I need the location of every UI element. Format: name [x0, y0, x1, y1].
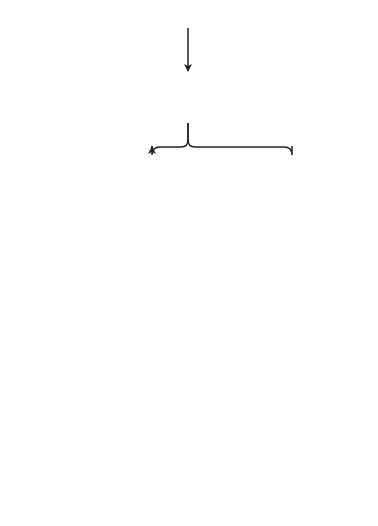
connector-lines: [0, 0, 378, 526]
